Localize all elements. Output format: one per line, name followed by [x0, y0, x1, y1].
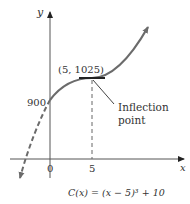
curve-dashed-segment	[20, 100, 50, 178]
point-label: (5, 1025)	[58, 64, 104, 75]
callout-text-line1: Inflection	[118, 101, 169, 113]
y-axis-label: y	[36, 6, 44, 19]
tick-label-900: 900	[27, 97, 46, 108]
tick-label-5: 5	[89, 163, 95, 174]
tick-label-0: 0	[47, 163, 53, 174]
callout-text-line2: point	[118, 114, 146, 126]
x-axis-label: x	[180, 162, 186, 173]
chart-canvas: y x 0 5 900 (5, 1025) Inflection point C…	[0, 0, 190, 204]
callout-leader	[93, 80, 114, 104]
function-formula: C(x) = (x − 5)³ + 10	[68, 187, 165, 198]
